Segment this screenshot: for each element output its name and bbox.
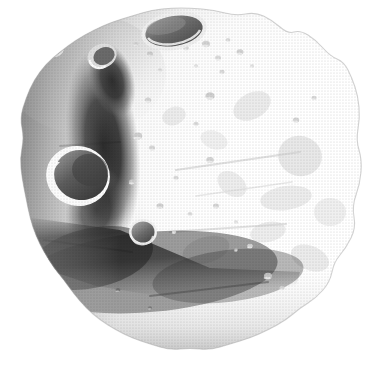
asteroid-illustration-figure: Grayscale halftone illustration of an ir… xyxy=(0,0,382,376)
asteroid-canvas xyxy=(0,0,382,376)
